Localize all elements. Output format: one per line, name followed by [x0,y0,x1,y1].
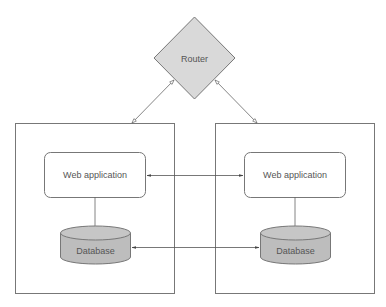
left-database-node: Database [61,226,131,264]
right-database-label: Database [276,246,315,256]
left-database-label: Database [76,246,115,256]
left-webapp-label: Web application [63,170,127,180]
architecture-diagram: Router Web application Web application D… [0,0,386,307]
router-node: Router [154,17,235,99]
router-right-connector [215,80,257,123]
router-left-connector [132,80,174,123]
right-database-top [261,226,331,240]
router-label: Router [181,54,208,64]
right-webapp-node: Web application [245,153,346,198]
left-webapp-node: Web application [45,153,146,198]
right-webapp-label: Web application [263,170,327,180]
right-database-node: Database [261,226,331,264]
left-database-top [61,226,131,240]
